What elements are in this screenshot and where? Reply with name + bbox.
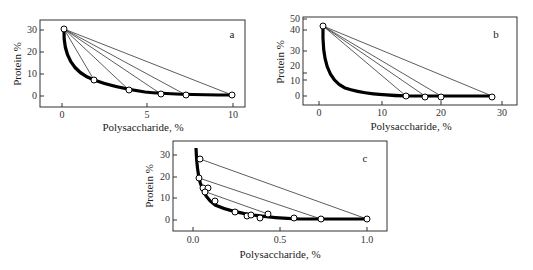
- x-tick: 5: [145, 109, 150, 120]
- x-axis-label: Polysaccharide, %: [102, 121, 183, 133]
- y-tick: 10: [290, 75, 300, 86]
- y-tick: 0: [165, 214, 170, 225]
- figure: 30 20 10 0 0 5 10 Polysaccharide, % Prot…: [0, 0, 533, 270]
- y-axis-label: Protein %: [274, 40, 286, 84]
- y-tick: 20: [27, 46, 37, 57]
- plot-frame: [303, 17, 517, 105]
- x-tick: 0: [317, 107, 322, 118]
- panel-a: 30 20 10 0 0 5 10 Polysaccharide, % Prot…: [11, 20, 245, 133]
- y-tick: 30: [27, 24, 37, 35]
- y-tick: 50: [290, 13, 300, 24]
- panel-tag: b: [493, 28, 499, 40]
- panel-c: 30 20 10 0 0.0 0.5 1.0 Polysaccharide, %…: [143, 141, 387, 260]
- x-axis-label: Polysaccharide, %: [239, 248, 320, 260]
- y-tick: 10: [160, 192, 170, 203]
- binodal-curve: [196, 148, 367, 219]
- x-tick: 0.0: [187, 234, 200, 245]
- x-tick: 0: [60, 109, 65, 120]
- x-tick: 1.0: [361, 234, 374, 245]
- y-tick: 0: [295, 90, 300, 101]
- panel-b: 50 40 30 20 10 0 0 10 20 30 Polysacchari…: [274, 13, 517, 132]
- y-tick: 10: [27, 68, 37, 79]
- x-tick: 10: [377, 107, 387, 118]
- y-tick: 0: [32, 90, 37, 101]
- panel-tag: c: [363, 152, 368, 164]
- y-tick: 20: [290, 60, 300, 71]
- x-tick: 30: [497, 107, 507, 118]
- y-tick: 20: [160, 171, 170, 182]
- y-tick: 30: [160, 149, 170, 160]
- y-tick: 40: [290, 24, 300, 35]
- x-tick: 10: [228, 109, 238, 120]
- panel-tag: a: [230, 28, 235, 40]
- x-tick: 20: [436, 107, 446, 118]
- tie-lines: [323, 26, 492, 96]
- tie-lines: [64, 29, 232, 95]
- x-tick: 0.5: [274, 234, 287, 245]
- y-axis-label: Protein %: [143, 164, 155, 208]
- y-axis-label: Protein %: [11, 42, 23, 86]
- x-axis-label: Polysaccharide, %: [370, 120, 451, 132]
- y-tick: 30: [290, 45, 300, 56]
